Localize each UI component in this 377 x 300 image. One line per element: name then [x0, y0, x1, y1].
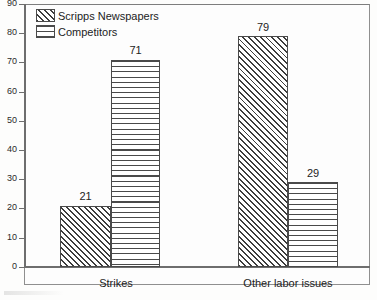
- bar-label-scripps-other: 79: [238, 21, 288, 33]
- legend-swatch-hatch-icon: [36, 9, 55, 22]
- bar-chart-figure: 90 80 70 60 50 40 30 20: [0, 0, 377, 300]
- legend-label-scripps: Scripps Newspapers: [58, 10, 159, 22]
- plot-area: 21 71 79 29 Scripps Newspapers Competito…: [24, 4, 370, 267]
- category-label-strikes: Strikes: [60, 277, 172, 290]
- bar-competitors-other[interactable]: [288, 182, 338, 267]
- y-tick-label: 20: [0, 203, 17, 212]
- y-tick-label: 60: [0, 87, 17, 96]
- legend-item-competitors[interactable]: Competitors: [36, 24, 196, 39]
- y-tick-label: 80: [0, 28, 17, 37]
- bar-label-competitors-strikes: 71: [111, 44, 160, 56]
- bar-scripps-strikes[interactable]: [60, 206, 111, 267]
- scan-artifact: [4, 291, 64, 295]
- y-tick-label: 90: [0, 0, 17, 8]
- y-tick-label: 0: [0, 262, 17, 271]
- category-label-other-labor-issues: Other labor issues: [222, 277, 354, 290]
- bar-competitors-strikes[interactable]: [111, 60, 160, 267]
- y-tick-label: 30: [0, 174, 17, 183]
- legend-swatch-hlines-icon: [36, 25, 55, 38]
- bar-label-scripps-strikes: 21: [60, 190, 111, 202]
- bar-label-competitors-other: 29: [288, 167, 338, 179]
- y-tick-label: 70: [0, 57, 17, 66]
- y-tick-label: 40: [0, 145, 17, 154]
- y-tick-label: 10: [0, 233, 17, 242]
- y-tick-label: 50: [0, 116, 17, 125]
- legend-label-competitors: Competitors: [58, 26, 117, 38]
- legend-item-scripps[interactable]: Scripps Newspapers: [36, 8, 196, 23]
- bar-scripps-other[interactable]: [238, 36, 288, 267]
- chart-legend: Scripps Newspapers Competitors: [36, 8, 196, 40]
